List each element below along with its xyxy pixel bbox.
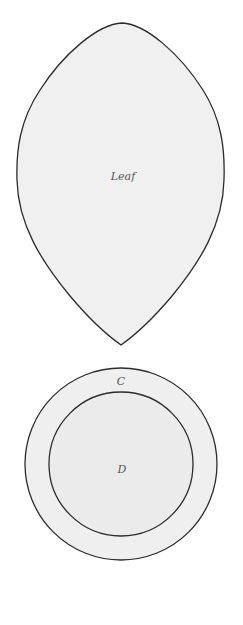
leaf-label: Leaf — [110, 170, 137, 183]
leaf-shape — [17, 23, 224, 345]
outer-circle-label: C — [117, 375, 126, 388]
circle-group: C D — [25, 368, 217, 560]
inner-circle-label: D — [117, 463, 127, 476]
leaf-shape-group: Leaf — [17, 23, 224, 345]
diagram-canvas: Leaf C D — [0, 0, 243, 625]
